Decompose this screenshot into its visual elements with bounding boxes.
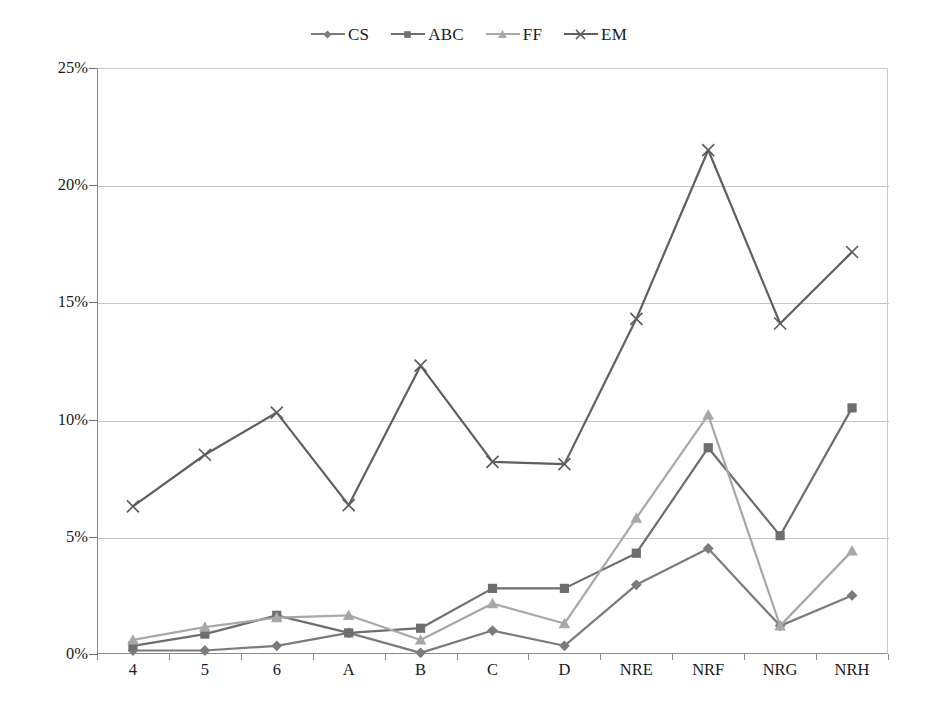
legend-label: EM <box>600 26 627 43</box>
x-axis-tick-label: NRG <box>763 662 798 679</box>
x-axis-tick-label: 5 <box>201 662 209 679</box>
data-point-marker <box>323 30 331 38</box>
x-axis-tick-label: B <box>415 662 426 679</box>
y-axis-tick-mark <box>89 185 97 186</box>
legend-entry-ff[interactable]: FF <box>486 22 542 46</box>
legend-marker-square-icon <box>391 27 425 41</box>
x-axis-tick-label: NRH <box>835 662 870 679</box>
data-point-marker <box>498 30 507 38</box>
legend-glyph <box>402 29 413 40</box>
y-axis-tick-mark <box>89 420 97 421</box>
x-axis-tick-mark <box>169 654 170 660</box>
x-axis-tick-mark <box>672 654 673 660</box>
gridline <box>98 186 889 187</box>
y-axis-tick-mark <box>89 302 97 303</box>
y-axis-tick-mark <box>89 537 97 538</box>
y-axis-tick-label: 0% <box>28 646 88 663</box>
x-axis-tick-label: 6 <box>273 662 281 679</box>
legend-marker-diamond-icon <box>311 27 345 41</box>
x-axis-tick-label: A <box>343 662 355 679</box>
chart-legend: CSABCFFEM <box>0 22 938 46</box>
legend-entry-abc[interactable]: ABC <box>391 22 464 46</box>
y-axis-tick-label: 20% <box>28 177 88 194</box>
data-point-marker <box>404 31 411 38</box>
legend-label: ABC <box>427 26 464 43</box>
x-axis-tick-mark <box>600 654 601 660</box>
y-axis: 0%5%10%15%20%25% <box>18 0 88 718</box>
x-axis-tick-mark <box>385 654 386 660</box>
legend-marker-cross-icon <box>564 27 598 41</box>
x-axis-tick-mark <box>313 654 314 660</box>
x-axis-tick-mark <box>744 654 745 660</box>
y-axis-tick-mark <box>89 654 97 655</box>
x-axis-tick-label: C <box>487 662 498 679</box>
gridline <box>98 421 889 422</box>
x-axis-tick-mark <box>888 654 889 660</box>
x-axis-tick-label: 4 <box>129 662 137 679</box>
legend-entry-em[interactable]: EM <box>564 22 627 46</box>
x-axis-tick-mark <box>816 654 817 660</box>
x-axis-tick-label: NRE <box>620 662 653 679</box>
y-axis-tick-mark <box>89 68 97 69</box>
data-point-marker <box>576 30 585 39</box>
legend-label: CS <box>347 26 369 43</box>
y-axis-tick-label: 25% <box>28 60 88 77</box>
y-axis-tick-label: 10% <box>28 412 88 429</box>
legend-glyph <box>322 29 333 40</box>
x-axis: 456ABCDNRENRFNRGNRH <box>97 662 888 690</box>
x-axis-tick-mark <box>241 654 242 660</box>
legend-entry-cs[interactable]: CS <box>311 22 369 46</box>
gridline <box>98 303 889 304</box>
x-axis-tick-mark <box>97 654 98 660</box>
x-axis-tick-mark <box>528 654 529 660</box>
x-axis-tick-mark <box>457 654 458 660</box>
y-axis-tick-label: 15% <box>28 294 88 311</box>
y-axis-tick-label: 5% <box>28 529 88 546</box>
legend-marker-triangle-icon <box>486 27 520 41</box>
x-axis-tick-label: D <box>558 662 570 679</box>
legend-label: FF <box>522 26 542 43</box>
gridline <box>98 538 889 539</box>
legend-glyph <box>575 29 586 40</box>
line-chart: CSABCFFEM 0%5%10%15%20%25% 456ABCDNRENRF… <box>0 0 938 718</box>
plot-area <box>97 68 888 654</box>
x-axis-tick-label: NRF <box>692 662 724 679</box>
legend-glyph <box>497 29 508 40</box>
